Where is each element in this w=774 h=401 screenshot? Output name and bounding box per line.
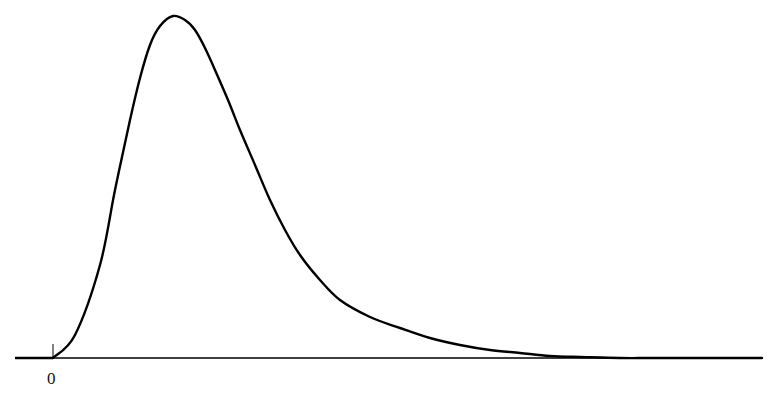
x-tick-label-origin: 0 bbox=[47, 369, 56, 389]
density-curve bbox=[53, 16, 762, 358]
density-chart bbox=[0, 0, 774, 401]
